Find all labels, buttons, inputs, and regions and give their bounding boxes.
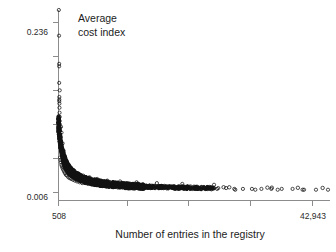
y-axis-min-label: 0.006 [27,192,49,202]
x-axis-max-label: 42,943 [300,211,326,221]
data-point [321,186,324,189]
data-point [296,186,299,189]
data-point [266,186,269,189]
data-point [291,187,294,190]
x-axis-title: Number of entries in the registry [115,228,265,240]
scatter-chart: 0.236 0.006 508 42,943 Average cost inde… [0,0,336,252]
data-point [254,188,257,191]
y-axis-annotation-line1: Average [78,12,117,24]
x-axis-min-label: 508 [52,211,66,221]
data-point [260,187,263,190]
chart-canvas: 0.236 0.006 508 42,943 Average cost inde… [0,0,336,252]
data-point [250,187,253,190]
axis-group [59,10,331,201]
y-axis-annotation-line2: cost index [78,26,126,38]
y-axis-max-label: 0.236 [27,27,49,37]
x-tick-marks [59,201,313,207]
data-point [280,187,283,190]
data-point [241,187,244,190]
data-point [228,186,231,189]
data-point [314,188,317,191]
data-point [326,188,329,191]
data-point [276,188,279,191]
